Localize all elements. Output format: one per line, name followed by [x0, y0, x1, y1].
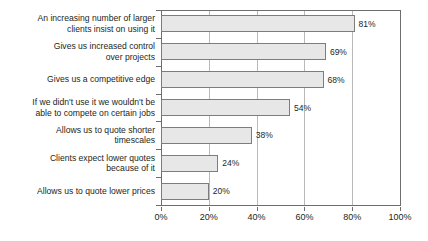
x-axis-line — [161, 205, 401, 206]
category-label-line: over projects — [6, 52, 155, 63]
y-axis-tick — [156, 10, 161, 11]
bar — [161, 71, 324, 88]
bar-value-label: 54% — [294, 103, 311, 112]
category-label-line: because of it — [6, 163, 155, 174]
bar-value-label: 68% — [328, 75, 345, 84]
x-axis-tick-mark — [304, 207, 305, 211]
category-label-line: Gives us a competitive edge — [6, 74, 155, 85]
category-label-line: Gives us increased control — [6, 41, 155, 52]
x-axis-tick-mark — [257, 207, 258, 211]
bar-row: 81% — [161, 15, 400, 32]
x-axis-tick-label: 20% — [200, 212, 218, 223]
x-axis-tick-group: 0%20%40%60%80%100% — [0, 207, 428, 227]
category-label-line: Clients expect lower quotes — [6, 153, 155, 164]
bar — [161, 99, 290, 116]
x-axis-tick-label: 60% — [295, 212, 313, 223]
y-axis-tick — [156, 38, 161, 39]
bar-value-label: 81% — [359, 20, 376, 29]
bar-row: 20% — [161, 183, 400, 200]
y-axis-tick — [156, 66, 161, 67]
bar-row: 69% — [161, 43, 400, 60]
bar-row: 24% — [161, 155, 400, 172]
y-axis-tick — [156, 94, 161, 95]
category-label: If we didn't use it we wouldn't beable t… — [6, 97, 161, 118]
category-label-line: Allows us to quote shorter — [6, 125, 155, 136]
bar-chart: An increasing number of largerclients in… — [0, 0, 428, 241]
plot-top-border — [161, 10, 401, 11]
y-axis-tick — [156, 205, 161, 206]
y-axis-tick — [156, 149, 161, 150]
category-label-line: If we didn't use it we wouldn't be — [6, 97, 155, 108]
x-axis-tick-mark — [209, 207, 210, 211]
bar — [161, 127, 252, 144]
plot-right-border — [400, 10, 401, 205]
plot-area: 81%69%68%54%38%24%20% — [161, 10, 400, 205]
x-axis-tick-mark — [352, 207, 353, 211]
x-axis-tick-label: 40% — [248, 212, 266, 223]
category-label-line: able to compete on certain jobs — [6, 108, 155, 119]
category-label: Allows us to quote lower prices — [6, 186, 161, 197]
category-label-group: An increasing number of largerclients in… — [0, 10, 161, 205]
category-label: An increasing number of largerclients in… — [6, 13, 161, 34]
category-label: Gives us a competitive edge — [6, 74, 161, 85]
category-label-line: An increasing number of larger — [6, 13, 155, 24]
x-axis-tick-label: 0% — [154, 212, 167, 223]
bar-value-label: 20% — [213, 187, 230, 196]
x-axis-tick-label: 80% — [343, 212, 361, 223]
bar-row: 68% — [161, 71, 400, 88]
bar-value-label: 38% — [256, 131, 273, 140]
x-axis-tick-label: 100% — [388, 212, 411, 223]
bar-row: 54% — [161, 99, 400, 116]
category-label: Gives us increased controlover projects — [6, 41, 161, 62]
bar — [161, 43, 326, 60]
bar — [161, 155, 218, 172]
bar-value-label: 69% — [330, 48, 347, 57]
category-label-line: Allows us to quote lower prices — [6, 186, 155, 197]
x-axis-tick-mark — [400, 207, 401, 211]
category-label: Allows us to quote shortertimescales — [6, 125, 161, 146]
bar — [161, 183, 209, 200]
bar-value-label: 24% — [222, 159, 239, 168]
y-axis-tick — [156, 121, 161, 122]
x-axis-tick-mark — [161, 207, 162, 211]
bar-row: 38% — [161, 127, 400, 144]
category-label: Clients expect lower quotesbecause of it — [6, 153, 161, 174]
category-label-line: timescales — [6, 135, 155, 146]
category-label-line: clients insist on using it — [6, 24, 155, 35]
y-axis-tick — [156, 177, 161, 178]
bar — [161, 15, 355, 32]
